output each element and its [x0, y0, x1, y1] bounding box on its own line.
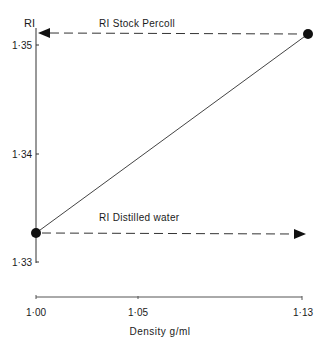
plot-area — [0, 0, 322, 348]
annotation-distilled-water: RI Distilled water — [99, 213, 179, 223]
arrow-right-icon — [294, 229, 306, 239]
y-tick-label-1-35: 1·35 — [4, 41, 32, 51]
annotation-stock-percoll: RI Stock Percoll — [99, 19, 175, 29]
arrow-left-icon — [38, 28, 50, 38]
stock-percoll-dashed-line — [50, 33, 302, 34]
x-tick-label-1-05: 1·05 — [128, 308, 148, 318]
data-point-stock-percoll — [303, 29, 313, 39]
y-tick-label-1-33: 1·33 — [4, 258, 32, 268]
x-tick-label-1-00: 1·00 — [26, 308, 46, 318]
data-point-distilled-water — [31, 228, 41, 238]
y-axis-title: RI — [24, 18, 35, 29]
distilled-water-dashed-line — [42, 233, 294, 234]
chart: RI 1·35 1·34 1·33 RI Stock Percoll RI Di… — [0, 0, 322, 348]
y-tick-label-1-34: 1·34 — [4, 150, 32, 160]
x-axis-title: Density g/ml — [129, 327, 190, 337]
calibration-line — [36, 34, 308, 233]
x-tick-label-1-13: 1·13 — [293, 308, 313, 318]
